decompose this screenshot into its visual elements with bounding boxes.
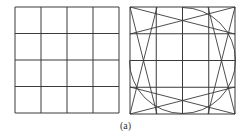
right-grid-lines [130,7,235,114]
figure-caption: (a) [0,120,251,131]
figure-canvas [0,0,251,135]
left-grid-panel [15,7,119,113]
right-grid-panel [130,7,236,114]
